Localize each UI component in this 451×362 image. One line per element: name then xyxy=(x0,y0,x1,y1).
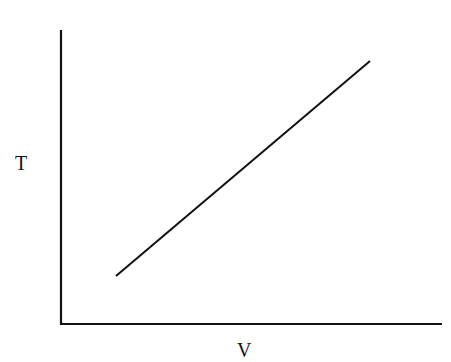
chart-canvas xyxy=(0,0,451,362)
data-line xyxy=(116,61,370,276)
y-axis-label: T xyxy=(15,153,27,173)
x-axis-label: V xyxy=(237,340,251,360)
